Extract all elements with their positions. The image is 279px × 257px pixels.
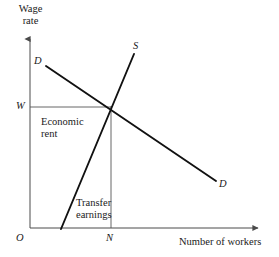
- x-axis-title: Number of workers: [179, 236, 261, 248]
- demand-curve-label-bottom: D: [219, 178, 227, 190]
- y-axis-title-line2: rate: [2, 15, 59, 27]
- economic-rent-annotation: Economic rent: [41, 116, 84, 140]
- supply-curve-label: S: [133, 40, 138, 52]
- economic-rent-line2: rent: [41, 128, 84, 140]
- y-axis-title: Wage rate: [2, 3, 59, 27]
- figure-canvas: Wage rate Number of workers O W N S D D …: [0, 0, 279, 257]
- quantity-tick-label: N: [106, 232, 113, 244]
- origin-label: O: [16, 232, 24, 244]
- wage-tick-label: W: [16, 100, 25, 112]
- transfer-earnings-line1: Transfer: [76, 197, 112, 209]
- transfer-earnings-annotation: Transfer earnings: [76, 197, 112, 221]
- y-axis-title-line1: Wage: [2, 3, 59, 15]
- economic-rent-line1: Economic: [41, 116, 84, 128]
- demand-curve-label-top: D: [34, 55, 42, 67]
- transfer-earnings-line2: earnings: [76, 209, 112, 221]
